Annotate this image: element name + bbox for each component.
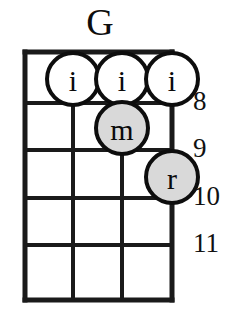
marker-finger-label: m	[110, 113, 133, 146]
finger-marker-i[interactable]: i	[47, 53, 99, 105]
fret-number-10: 10	[193, 183, 220, 210]
fret-number-8: 8	[193, 88, 207, 115]
finger-marker-r[interactable]: r	[146, 151, 198, 203]
fret-number-11: 11	[193, 230, 219, 257]
fretboard: iiimr	[0, 0, 228, 331]
marker-finger-label: i	[168, 64, 176, 97]
marker-finger-label: i	[118, 64, 126, 97]
chord-diagram: G iiimr 891011	[0, 0, 228, 331]
finger-marker-i[interactable]: i	[146, 53, 198, 105]
finger-marker-m[interactable]: m	[96, 102, 148, 154]
marker-finger-label: i	[69, 64, 77, 97]
fret-number-9: 9	[193, 135, 207, 162]
marker-finger-label: r	[167, 162, 177, 195]
finger-marker-i[interactable]: i	[96, 53, 148, 105]
